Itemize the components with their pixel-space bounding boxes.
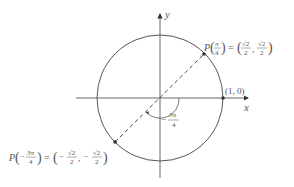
x-den: 2: [70, 158, 74, 166]
comma: ,: [252, 44, 254, 54]
x-num: √2: [68, 149, 76, 157]
label-p-neg-3pi-4: P ( − 3π 4 ) = ( − √2 2 , − √2 2 ): [8, 149, 108, 166]
arg-den: 4: [29, 158, 33, 166]
paren: (: [53, 150, 58, 166]
angle-label: − 3π 4: [161, 111, 179, 129]
label-p-pi-4: P ( π 4 ) = ( √2 2 , √2 2 ): [203, 40, 273, 57]
paren: ): [268, 40, 273, 56]
x-den: 2: [244, 49, 248, 57]
equals: =: [44, 152, 50, 163]
y-axis-label: y: [164, 8, 170, 20]
angle-num: 3π: [168, 111, 177, 119]
comma: ,: [78, 153, 80, 163]
y-den: 2: [260, 49, 264, 57]
arg-num: π: [215, 40, 219, 48]
paren: ): [37, 150, 42, 166]
y-num: √2: [93, 149, 101, 157]
point-1-0: [221, 96, 225, 100]
y-sign: −: [84, 152, 89, 161]
angle-den: 4: [172, 121, 176, 129]
arg-sign: −: [20, 152, 25, 161]
paren: ): [221, 40, 226, 56]
arg-num: 3π: [26, 149, 35, 157]
y-den: 2: [95, 158, 99, 166]
y-num: √2: [258, 40, 266, 48]
arg-den: 4: [215, 49, 219, 57]
angle-sign: −: [161, 114, 166, 124]
x-sign: −: [59, 152, 64, 161]
unit-circle-diagram: y x (1, 0) P ( π 4 ) = ( √2 2 , √2 2 ) −…: [0, 0, 294, 187]
equals: =: [228, 42, 234, 53]
point-p-neg-3pi-4: [113, 140, 117, 144]
paren: ): [103, 150, 108, 166]
x-num: √2: [242, 40, 250, 48]
point-1-0-label: (1, 0): [225, 86, 245, 96]
x-axis-label: x: [243, 101, 249, 113]
